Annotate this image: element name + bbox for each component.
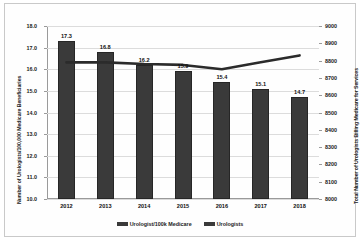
- plot-area: 17.316.816.215.915.415.114.7: [47, 26, 319, 199]
- y-axis-right-tick: 8800: [325, 58, 349, 64]
- tick-mark: [319, 26, 322, 27]
- tick-mark: [319, 199, 322, 200]
- x-axis-label: 2015: [169, 203, 197, 209]
- y-axis-right-title: Total Number of Urologists Billing Medic…: [353, 68, 359, 204]
- tick-mark: [44, 48, 47, 49]
- y-axis-right-tick: 8700: [325, 75, 349, 81]
- x-axis-label: 2016: [208, 203, 236, 209]
- tick-mark: [319, 164, 322, 165]
- y-axis-right-tick: 8300: [325, 144, 349, 150]
- bar-value-label: 17.3: [54, 33, 78, 39]
- y-axis-left-tick: 11.0: [15, 174, 37, 180]
- bar-value-label: 16.8: [93, 44, 117, 50]
- legend-label: Urologists: [217, 221, 244, 227]
- line-series: [47, 26, 319, 199]
- y-axis-left-tick: 16.0: [15, 66, 37, 72]
- y-axis-right-tick: 8000: [325, 196, 349, 202]
- x-axis-label: 2017: [247, 203, 275, 209]
- y-axis-left-tick: 18.0: [15, 23, 37, 29]
- tick-mark: [319, 61, 322, 62]
- tick-mark: [319, 113, 322, 114]
- tick-mark: [44, 91, 47, 92]
- y-axis-right-tick: 8400: [325, 127, 349, 133]
- tick-mark: [319, 147, 322, 148]
- legend-item[interactable]: Urologists: [204, 221, 244, 227]
- legend-label: Urologist/100k Medicare: [130, 221, 192, 227]
- y-axis-left-title: Number of Urologists/100,000 Medicare Be…: [16, 76, 22, 204]
- tick-mark: [44, 134, 47, 135]
- y-axis-right-tick: 9000: [325, 23, 349, 29]
- y-axis-right-tick: 8200: [325, 161, 349, 167]
- y-axis-left-tick: 17.0: [15, 45, 37, 51]
- tick-mark: [319, 95, 322, 96]
- legend-swatch: [204, 222, 215, 226]
- bar-value-label: 14.7: [288, 89, 312, 95]
- tick-mark: [44, 26, 47, 27]
- bar-value-label: 15.4: [210, 74, 234, 80]
- y-axis-right-tick: 8600: [325, 92, 349, 98]
- legend-swatch: [117, 222, 128, 226]
- gridline: [47, 199, 319, 200]
- y-axis-right-tick: 8100: [325, 179, 349, 185]
- tick-mark: [319, 182, 322, 183]
- x-axis-label: 2014: [130, 203, 158, 209]
- tick-mark: [44, 199, 47, 200]
- y-axis-left-tick: 10.0: [15, 196, 37, 202]
- y-axis-left-tick: 14.0: [15, 110, 37, 116]
- tick-mark: [44, 113, 47, 114]
- tick-mark: [319, 43, 322, 44]
- x-axis-label: 2013: [91, 203, 119, 209]
- bar-value-label: 15.1: [249, 81, 273, 87]
- y-axis-right-tick: 8500: [325, 110, 349, 116]
- y-axis-left-tick: 13.0: [15, 131, 37, 137]
- chart-legend: Urologist/100k MedicareUrologists: [5, 221, 355, 227]
- y-axis-right-tick: 8900: [325, 40, 349, 46]
- legend-item[interactable]: Urologist/100k Medicare: [117, 221, 192, 227]
- tick-mark: [44, 156, 47, 157]
- tick-mark: [44, 177, 47, 178]
- bar-value-label: 16.2: [132, 57, 156, 63]
- tick-mark: [319, 130, 322, 131]
- y-axis-left-tick: 15.0: [15, 88, 37, 94]
- chart-container: Number of Urologists/100,000 Medicare Be…: [4, 3, 356, 237]
- tick-mark: [319, 78, 322, 79]
- x-axis-label: 2012: [52, 203, 80, 209]
- bar-value-label: 15.9: [171, 63, 195, 69]
- x-axis-label: 2018: [286, 203, 314, 209]
- y-axis-left-tick: 12.0: [15, 153, 37, 159]
- tick-mark: [44, 69, 47, 70]
